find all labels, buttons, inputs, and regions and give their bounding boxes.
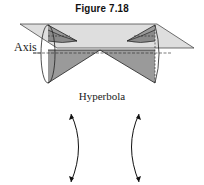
hyperbola-graph bbox=[69, 114, 141, 182]
axis-label: Axis bbox=[14, 40, 37, 55]
hyperbola-right-branch bbox=[132, 114, 140, 182]
hyperbola-left-branch bbox=[71, 114, 79, 182]
cutting-plane bbox=[20, 24, 194, 48]
hyperbola-label: Hyperbola bbox=[0, 90, 204, 102]
double-cone bbox=[48, 50, 155, 83]
